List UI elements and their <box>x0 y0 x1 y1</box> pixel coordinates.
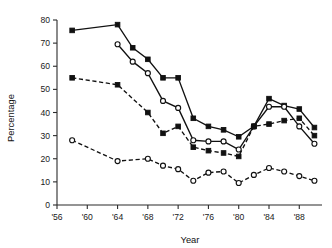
data-point-open-circle <box>312 178 317 183</box>
y-axis-tick-label: 30 <box>40 131 50 141</box>
data-point-open-circle <box>236 147 241 152</box>
y-axis-tick-label: 70 <box>40 38 50 48</box>
data-point-open-circle <box>191 178 196 183</box>
data-point-filled-square <box>161 131 166 136</box>
x-axis-tick-label: '60 <box>82 212 93 222</box>
data-point-filled-square <box>115 82 120 87</box>
data-point-filled-square <box>312 133 317 138</box>
data-point-open-circle <box>115 159 120 164</box>
data-point-filled-square <box>236 134 241 139</box>
series-layer <box>70 22 317 185</box>
y-axis-title: Percentage <box>5 94 16 142</box>
data-point-filled-square <box>267 96 272 101</box>
y-axis-tick-label: 60 <box>40 61 50 71</box>
data-point-open-circle <box>176 105 181 110</box>
x-axis-tick-label: '56 <box>51 212 62 222</box>
data-point-open-circle <box>115 42 120 47</box>
data-point-open-circle <box>297 174 302 179</box>
data-point-open-circle <box>267 166 272 171</box>
data-point-filled-square <box>176 76 181 81</box>
data-point-open-circle <box>251 172 256 177</box>
y-axis-tick-label: 0 <box>45 200 50 210</box>
data-point-open-circle <box>145 156 150 161</box>
x-axis-tick-label: '76 <box>203 212 214 222</box>
line-chart: 01020304050607080'56'60'64'68'72'76'80'8… <box>0 0 332 248</box>
data-point-open-circle <box>130 59 135 64</box>
data-point-open-circle <box>221 139 226 144</box>
data-point-open-circle <box>191 138 196 143</box>
data-point-filled-square <box>206 124 211 129</box>
y-axis-tick-label: 80 <box>40 15 50 25</box>
data-point-filled-square <box>282 118 287 123</box>
chart-canvas: 01020304050607080'56'60'64'68'72'76'80'8… <box>0 0 332 248</box>
data-point-open-circle <box>145 71 150 76</box>
axes: 01020304050607080'56'60'64'68'72'76'80'8… <box>40 15 322 222</box>
data-point-open-circle <box>282 169 287 174</box>
x-axis-tick-label: '68 <box>142 212 153 222</box>
data-point-open-circle <box>221 169 226 174</box>
x-axis-tick-label: '88 <box>294 212 305 222</box>
y-axis-tick-label: 10 <box>40 177 50 187</box>
data-point-filled-square <box>191 145 196 150</box>
data-point-filled-square <box>130 45 135 50</box>
y-axis-tick-label: 40 <box>40 108 50 118</box>
y-axis-tick-label: 20 <box>40 154 50 164</box>
x-axis-tick-label: '80 <box>233 212 244 222</box>
x-axis-title: Year <box>181 234 200 245</box>
data-point-filled-square <box>297 107 302 112</box>
data-point-open-circle <box>312 141 317 146</box>
data-point-filled-square <box>146 57 151 62</box>
data-point-filled-square <box>267 122 272 127</box>
data-point-filled-square <box>221 128 226 133</box>
data-point-open-circle <box>176 167 181 172</box>
data-point-filled-square <box>312 125 317 130</box>
axis-labels: Percentage Year <box>5 94 199 245</box>
data-point-filled-square <box>297 116 302 121</box>
data-point-filled-square <box>115 22 120 27</box>
data-point-filled-square <box>221 151 226 156</box>
data-point-open-circle <box>206 170 211 175</box>
data-point-filled-square <box>252 124 257 129</box>
x-axis-tick-label: '72 <box>173 212 184 222</box>
data-point-open-circle <box>161 163 166 168</box>
data-point-filled-square <box>161 76 166 81</box>
data-point-open-circle <box>282 104 287 109</box>
data-point-filled-square <box>70 76 75 81</box>
data-point-filled-square <box>146 110 151 115</box>
data-point-filled-square <box>176 124 181 129</box>
data-point-open-circle <box>206 139 211 144</box>
data-point-open-circle <box>297 124 302 129</box>
x-axis-tick-label: '64 <box>112 212 123 222</box>
y-axis-tick-label: 50 <box>40 84 50 94</box>
data-point-open-circle <box>161 98 166 103</box>
data-point-open-circle <box>267 104 272 109</box>
data-point-open-circle <box>70 138 75 143</box>
data-point-filled-square <box>206 148 211 153</box>
data-point-open-circle <box>236 181 241 186</box>
data-point-filled-square <box>191 116 196 121</box>
data-point-filled-square <box>70 28 75 33</box>
x-axis-tick-label: '84 <box>263 212 274 222</box>
data-point-filled-square <box>236 154 241 159</box>
